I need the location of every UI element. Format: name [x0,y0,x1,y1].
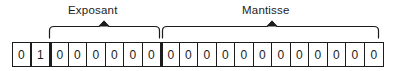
bit-cell-19: 0 [346,43,365,66]
bit-cell-8: 0 [143,43,162,66]
bit-cell-2: 1 [32,43,51,66]
bit-cell-3: 0 [50,43,69,66]
bit-cell-18: 0 [328,43,347,66]
bit-cell-13: 0 [235,43,254,66]
bit-cell-9: 0 [161,43,180,66]
bit-cell-1: 0 [13,43,32,66]
bit-cell-14: 0 [254,43,273,66]
bit-cell-5: 0 [87,43,106,66]
exposant-brace-pointer-icon [99,21,109,27]
bit-cell-17: 0 [309,43,328,66]
bit-cell-16: 0 [291,43,310,66]
bit-cell-11: 0 [198,43,217,66]
bit-row: 01000000000000000000 [12,42,384,67]
bit-cell-15: 0 [272,43,291,66]
group-braces [0,0,397,40]
bit-cell-4: 0 [69,43,88,66]
bit-cell-12: 0 [217,43,236,66]
bit-cell-6: 0 [106,43,125,66]
floating-point-bit-diagram: Exposant Mantisse 01000000000000000000 [0,0,397,71]
bit-cell-10: 0 [180,43,199,66]
mantisse-brace-pointer-icon [267,21,277,27]
bit-cell-20: 0 [365,43,384,66]
bit-cell-7: 0 [124,43,143,66]
